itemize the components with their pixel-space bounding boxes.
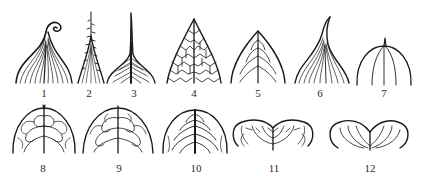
leaf-apex-2 (76, 12, 106, 84)
leaf-label-9: 9 (104, 163, 134, 174)
leaf-apex-4 (166, 18, 222, 84)
leaf-apex-7 (356, 36, 412, 86)
leaf-label-6: 6 (305, 88, 335, 99)
leaf-label-4: 4 (179, 88, 209, 99)
leaf-label-2: 2 (74, 88, 104, 99)
leaf-label-3: 3 (119, 88, 149, 99)
leaf-apex-10 (162, 104, 228, 154)
leaf-apex-3 (106, 12, 156, 84)
leaf-label-8: 8 (28, 163, 58, 174)
leaf-apex-figure: 1 2 3 4 (0, 0, 423, 180)
leaf-label-5: 5 (243, 88, 273, 99)
leaf-apex-11 (230, 116, 316, 152)
leaf-apex-5 (230, 30, 286, 84)
leaf-label-12: 12 (355, 163, 385, 174)
figure-caption: · · · · · (150, 170, 280, 178)
leaf-apex-1 (14, 18, 74, 84)
leaf-apex-6 (294, 16, 350, 84)
leaf-apex-9 (82, 104, 154, 154)
leaf-apex-12 (326, 116, 412, 152)
leaf-apex-8 (12, 104, 76, 154)
leaf-label-1: 1 (29, 88, 59, 99)
leaf-label-7: 7 (369, 88, 399, 99)
